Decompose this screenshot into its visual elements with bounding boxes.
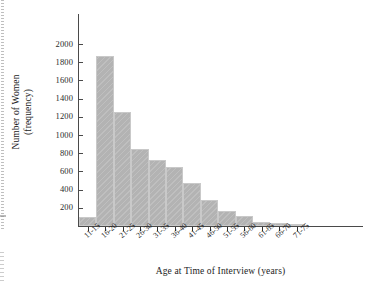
histogram-bar [114,112,131,226]
y-axis-tick-label-text: 600 [47,167,73,176]
y-axis-tick-label: 1800 [45,58,73,67]
y-axis-tick-label-text: 1800 [47,58,73,67]
y-axis-tick-label: 400 [45,185,73,194]
y-axis-tick [79,171,83,172]
y-axis-tick [79,153,83,154]
y-axis-tick [79,190,83,191]
y-axis-tick [79,117,83,118]
y-axis-tick-label-text: 1200 [47,112,73,121]
y-axis-tick [79,208,83,209]
y-axis-tick-label-text: 1000 [47,131,73,140]
y-axis-tick [79,62,83,63]
y-axis-line [78,14,79,226]
y-axis-tick-label-text: 1600 [47,76,73,85]
y-axis-tick [79,44,83,45]
histogram-bar [149,160,166,226]
y-axis-tick-label: 2000 [45,40,73,49]
histogram-bar [96,56,113,226]
y-axis-tick [79,99,83,100]
y-axis-tick-label: 200 [45,203,73,212]
y-axis-tick-label: 600 [45,167,73,176]
y-axis-title-line-1: Number of Women [10,42,22,182]
y-axis-tick [79,135,83,136]
y-axis-tick-label-text: 1400 [47,94,73,103]
y-axis-title: Number of Women (frequency) [10,42,34,182]
y-axis-tick-label: 800 [45,149,73,158]
y-axis-tick-label-text: 200 [47,203,73,212]
y-axis-tick-label: 1000 [45,131,73,140]
y-axis-tick-label: 1400 [45,94,73,103]
histogram-bar [166,167,183,226]
y-axis-tick [79,80,83,81]
y-axis-tick-label-text: 800 [47,149,73,158]
y-axis-tick-label: 1200 [45,112,73,121]
y-axis-tick-label-text: 400 [47,185,73,194]
histogram-plot-area: 200400600800100012001400160018002000 11-… [0,0,374,284]
y-axis-tick-label-text: 2000 [47,40,73,49]
histogram-bar [131,149,148,226]
y-axis-title-line-2: (frequency) [22,42,34,182]
y-axis-tick-label: 1600 [45,76,73,85]
x-axis-title: Age at Time of Interview (years) [78,266,363,276]
histogram-bar [183,183,200,226]
